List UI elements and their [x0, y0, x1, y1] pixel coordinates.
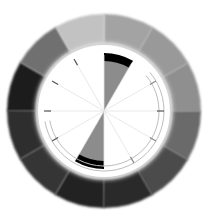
- inner-disk: [38, 45, 170, 177]
- color-wheel: [0, 0, 208, 223]
- color-wheel-diagram: [0, 0, 208, 223]
